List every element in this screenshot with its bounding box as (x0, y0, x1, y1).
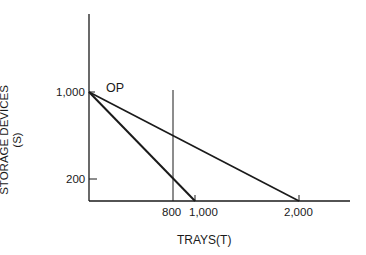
constraint-line-2 (89, 92, 299, 201)
y-axis-title: STORAGE DEVICES (S) (0, 80, 24, 200)
x-tick-label-1000: 1,000 (189, 206, 218, 218)
y-tick-label-200: 200 (66, 173, 85, 185)
y-tick-label-1000: 1,000 (56, 86, 85, 98)
constraint-line-1 (89, 92, 195, 201)
op-annotation: OP (106, 81, 124, 95)
x-tick-label-800: 800 (162, 206, 181, 218)
x-tick-label-2000: 2,000 (284, 206, 313, 218)
y-axis-title-line2: (S) (11, 80, 24, 200)
x-axis-title: TRAYS(T) (177, 233, 231, 247)
y-axis-title-line1: STORAGE DEVICES (0, 80, 11, 200)
